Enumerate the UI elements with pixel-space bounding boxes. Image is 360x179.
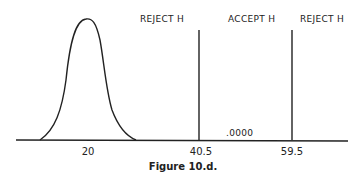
figure-graphic: [0, 0, 360, 179]
tick-label-59-5: 59.5: [281, 146, 303, 157]
tick-label-20: 20: [82, 146, 95, 157]
region-label-reject-left: REJECT H: [140, 14, 184, 24]
distribution-curve: [40, 19, 136, 140]
region-label-accept: ACCEPT H: [228, 14, 275, 24]
x-axis: [16, 140, 348, 141]
region-label-reject-right: REJECT H: [300, 14, 344, 24]
probability-label: .0000: [226, 128, 253, 138]
tick-label-40-5: 40.5: [190, 146, 212, 157]
figure-caption: Figure 10.d.: [149, 161, 217, 172]
